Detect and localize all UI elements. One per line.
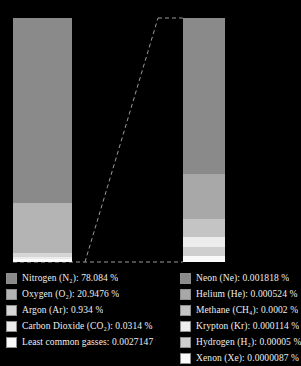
legend-label-helium: Helium (He): 0.000524 %: [196, 289, 298, 300]
segment-oxygen[interactable]: [13, 203, 72, 253]
legend-label-carbon-dioxide: Carbon Dioxide (CO₂): 0.0314 %: [22, 321, 153, 332]
legend-label-least-common-gasses: Least common gasses: 0.0027147 %: [22, 337, 156, 348]
legend-label-hydrogen: Hydrogen (H₂): 0.00005 %: [196, 337, 301, 348]
legend-label-neon: Neon (Ne): 0.001818 %: [196, 273, 289, 284]
legend-label-oxygen: Oxygen (O₂): 20.9476 %: [22, 289, 119, 300]
legend-item-least-common-gasses[interactable]: Least common gasses: 0.0027147 %: [6, 334, 156, 350]
main-composition-bar[interactable]: [13, 18, 72, 262]
legend-swatch-oxygen: [6, 289, 17, 300]
legend-swatch-neon: [180, 273, 191, 284]
legend-main-composition: Nitrogen (N₂): 78.084 % Oxygen (O₂): 20.…: [6, 270, 156, 350]
legend-item-neon[interactable]: Neon (Ne): 0.001818 %: [180, 270, 301, 286]
legend-label-xenon: Xenon (Xe): 0.0000087 %: [196, 353, 299, 364]
legend-label-argon: Argon (Ar): 0.934 %: [22, 305, 103, 316]
segment-helium[interactable]: [183, 174, 225, 219]
legend-item-methane[interactable]: Methane (CH₄): 0.0002 %: [180, 302, 301, 318]
segment-least-common-gasses[interactable]: [13, 259, 72, 262]
legend-item-krypton[interactable]: Krypton (Kr): 0.000114 %: [180, 318, 301, 334]
segment-hydrogen[interactable]: [183, 247, 225, 256]
segment-methane[interactable]: [183, 219, 225, 237]
segment-nitrogen[interactable]: [13, 18, 72, 203]
segment-krypton[interactable]: [183, 237, 225, 247]
legend-item-hydrogen[interactable]: Hydrogen (H₂): 0.00005 %: [180, 334, 301, 350]
legend-item-xenon[interactable]: Xenon (Xe): 0.0000087 %: [180, 350, 301, 366]
legend-label-krypton: Krypton (Kr): 0.000114 %: [196, 321, 299, 332]
trace-gas-magnified-bar[interactable]: [183, 18, 225, 262]
legend-label-methane: Methane (CH₄): 0.0002 %: [196, 305, 298, 316]
legend-item-argon[interactable]: Argon (Ar): 0.934 %: [6, 302, 156, 318]
legend-swatch-carbon-dioxide: [6, 321, 17, 332]
legend-swatch-hydrogen: [180, 337, 191, 348]
legend-swatch-nitrogen: [6, 273, 17, 284]
legend-item-oxygen[interactable]: Oxygen (O₂): 20.9476 %: [6, 286, 156, 302]
legend-trace-gasses: Neon (Ne): 0.001818 % Helium (He): 0.000…: [180, 270, 301, 366]
legend-item-helium[interactable]: Helium (He): 0.000524 %: [180, 286, 301, 302]
legend-swatch-methane: [180, 305, 191, 316]
legend-swatch-least-common-gasses: [6, 337, 17, 348]
legend-swatch-krypton: [180, 321, 191, 332]
legend-item-nitrogen[interactable]: Nitrogen (N₂): 78.084 %: [6, 270, 156, 286]
legend-item-carbon-dioxide[interactable]: Carbon Dioxide (CO₂): 0.0314 %: [6, 318, 156, 334]
segment-neon[interactable]: [183, 18, 225, 174]
callout-line-diagonal: [85, 18, 158, 262]
legend-swatch-argon: [6, 305, 17, 316]
segment-xenon[interactable]: [183, 256, 225, 262]
legend-label-nitrogen: Nitrogen (N₂): 78.084 %: [22, 273, 118, 284]
legend-swatch-helium: [180, 289, 191, 300]
legend-swatch-xenon: [180, 353, 191, 364]
